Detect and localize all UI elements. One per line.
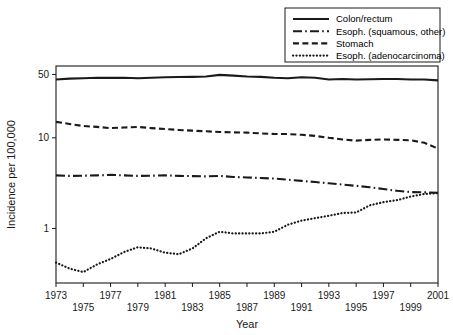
x-tick-label-upper: 1989 (263, 290, 286, 301)
legend-label-3: Esoph. (adenocarcinoma) (336, 50, 445, 61)
x-tick-label-upper: 1973 (45, 290, 68, 301)
y-tick-label: 1 (43, 223, 49, 234)
x-tick-label-upper: 1981 (154, 290, 177, 301)
x-tick-label-upper: 1997 (372, 290, 395, 301)
x-tick-label-upper: 1977 (99, 290, 122, 301)
series-line-3 (56, 193, 438, 272)
x-tick-label-lower: 1975 (72, 302, 95, 313)
x-tick-label-lower: 1987 (236, 302, 259, 313)
chart-figure: 1105019731977198119851989199319972001197… (0, 0, 453, 335)
legend-label-2: Stomach (336, 38, 374, 49)
series-line-2 (56, 122, 438, 149)
x-tick-label-upper: 1985 (209, 290, 232, 301)
x-tick-label-lower: 1979 (127, 302, 150, 313)
y-tick-label: 10 (38, 132, 50, 143)
x-tick-label-upper: 2001 (427, 290, 450, 301)
x-tick-label-upper: 1993 (318, 290, 341, 301)
series-line-0 (56, 75, 438, 81)
legend-label-1: Esoph. (squamous, other) (336, 26, 445, 37)
series-line-1 (56, 175, 438, 193)
legend-label-0: Colon/rectum (336, 13, 393, 24)
y-tick-label: 50 (38, 69, 50, 80)
x-tick-label-lower: 1991 (290, 302, 313, 313)
y-axis-title: Incidence per 100,000 (5, 120, 17, 229)
x-tick-label-lower: 1999 (400, 302, 423, 313)
x-tick-label-lower: 1983 (181, 302, 204, 313)
incidence-line-chart: 1105019731977198119851989199319972001197… (0, 0, 453, 335)
x-tick-label-lower: 1995 (345, 302, 368, 313)
x-axis-title: Year (236, 318, 259, 330)
